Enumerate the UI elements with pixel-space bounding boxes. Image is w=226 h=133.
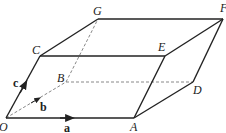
label-O: O xyxy=(0,120,8,133)
edge-CG xyxy=(40,19,98,56)
parallelepiped-diagram: O A B D C E G F a b c xyxy=(0,0,226,133)
label-vector-c: c xyxy=(13,76,19,90)
label-F: F xyxy=(219,1,226,15)
label-vector-b: b xyxy=(40,100,47,114)
label-B: B xyxy=(57,71,65,85)
label-C: C xyxy=(32,43,41,57)
arrow-c-icon xyxy=(20,84,25,93)
label-D: D xyxy=(192,83,202,97)
solid-edges xyxy=(6,19,223,118)
arrow-b-icon xyxy=(31,99,38,103)
label-E: E xyxy=(157,40,166,54)
label-A: A xyxy=(129,120,138,133)
label-G: G xyxy=(93,4,102,18)
label-vector-a: a xyxy=(64,121,70,133)
hidden-edges xyxy=(6,19,193,118)
